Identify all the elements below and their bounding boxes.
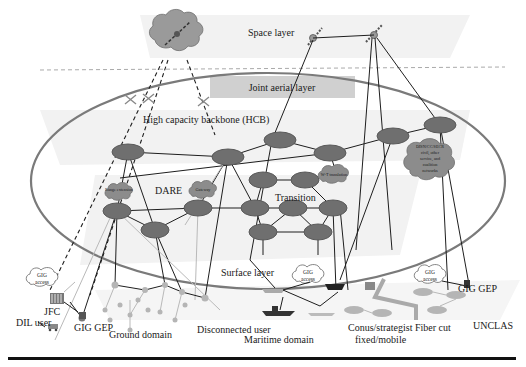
ship-icon [262, 311, 295, 316]
unclas-label: UNCLAS [473, 320, 513, 331]
bottom-rule [8, 357, 516, 360]
network-node [424, 117, 456, 133]
gig-access-cloud-right: GIG access [414, 265, 446, 284]
conus-label-line1: Conus/strategist [348, 322, 413, 333]
network-node [249, 224, 277, 240]
network-node [112, 144, 144, 160]
gig-gep-right-label: GIG GEP [458, 283, 498, 294]
gig-gep-left-label: GIG GEP [74, 322, 114, 333]
network-node [141, 222, 169, 238]
gig-access-cloud-left: GIG access [26, 268, 58, 287]
svg-text:GIG: GIG [425, 269, 435, 275]
satellite-cloud [149, 9, 203, 50]
jfc-label: JFC [44, 306, 60, 317]
vehicle-icon [365, 282, 375, 290]
maritime-domain-label: Maritime domain [244, 334, 314, 345]
conus-label-line2: fixed/mobile [355, 334, 407, 345]
ship-icon [308, 313, 335, 316]
network-node [314, 145, 346, 161]
gig-access-cloud-middle: GIG access [292, 265, 324, 284]
network-node [249, 172, 277, 188]
ship-icon [325, 284, 345, 290]
svg-text:GIG: GIG [37, 272, 47, 278]
svg-text:access: access [301, 276, 315, 282]
network-node [291, 172, 319, 188]
layer-separator-line [40, 67, 505, 70]
surface-layer-label: Surface layer [221, 267, 275, 278]
network-node [304, 224, 332, 240]
network-node [241, 200, 269, 216]
transition-label: Transition [275, 192, 316, 203]
network-node [212, 149, 244, 165]
network-node [319, 200, 347, 216]
joint-aerial-layer-label: Joint aerial layer [249, 82, 316, 93]
svg-text:DISN/CC/SECR: DISN/CC/SECR [416, 144, 444, 149]
svg-text:Gateway: Gateway [196, 187, 212, 192]
fiber-cut-label: Fiber cut [415, 322, 451, 333]
ground-domain-label: Ground domain [109, 329, 172, 340]
network-node [377, 128, 409, 144]
ship-icon [262, 289, 285, 293]
svg-text:W-T translation: W-T translation [321, 172, 348, 177]
broken-link-x-icons [125, 94, 209, 106]
dil-user-label: DIL user [16, 317, 52, 328]
network-node [184, 200, 212, 216]
network-architecture-diagram: Range extension Gateway W-T translation … [0, 0, 526, 367]
gig-gep-icon [79, 312, 86, 319]
svg-text:Range extension: Range extension [105, 187, 134, 192]
wt-translation-cloud: W-T translation [318, 164, 348, 183]
svg-text:GIG: GIG [303, 269, 313, 275]
space-layer-label: Space layer [248, 27, 295, 38]
dare-label: DARE [155, 185, 182, 196]
svg-text:access: access [423, 276, 437, 282]
hcb-label: High capacity backbone (HCB) [143, 114, 269, 126]
network-node [264, 132, 296, 148]
disn-networks-cloud: DISN/CC/SECR civil, other service, and c… [404, 139, 455, 180]
svg-text:networks: networks [422, 168, 438, 173]
jfc-building-icon [50, 293, 64, 304]
svg-text:access: access [35, 279, 49, 285]
svg-text:coalition: coalition [423, 162, 439, 167]
network-node [103, 203, 131, 219]
